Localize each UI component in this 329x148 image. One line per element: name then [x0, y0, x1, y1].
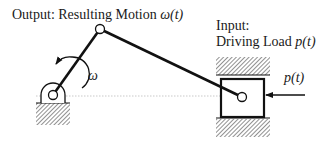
- input-label-line1: Input:: [216, 18, 249, 33]
- slider-crank-diagram: Output: Resulting Motion ω(t) Input: Dri…: [0, 0, 329, 148]
- omega-label: ω: [88, 68, 98, 83]
- input-label-line2: Driving Load p(t): [216, 34, 316, 50]
- fixed-pivot-support: [36, 83, 70, 125]
- fixed-pivot-joint: [49, 91, 58, 100]
- output-label: Output: Resulting Motion ω(t): [12, 7, 184, 23]
- guide-top: [216, 57, 270, 75]
- slider-pin-joint: [238, 93, 247, 102]
- guide-bottom: [216, 118, 270, 137]
- crank-link: [53, 29, 100, 95]
- crank-joint: [96, 25, 105, 34]
- force-label: p(t): [283, 70, 305, 86]
